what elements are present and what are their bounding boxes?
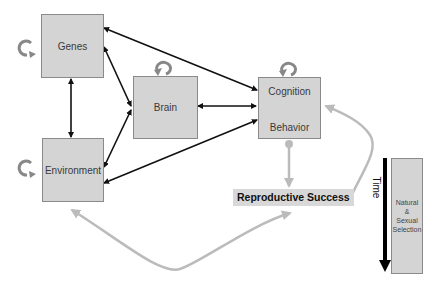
self-loop-brain-icon: [154, 62, 171, 76]
edge-behavior-reproductive-success: [285, 140, 293, 186]
self-loop-cognition-icon: [279, 63, 296, 77]
node-environment-label: Environment: [45, 165, 101, 176]
node-cognition-label: Cognition: [268, 86, 310, 97]
node-genes-label: Genes: [58, 41, 87, 52]
node-brain-label: Brain: [154, 102, 177, 113]
node-genes: Genes: [41, 14, 104, 78]
selection-line-4: Selection: [393, 225, 422, 234]
node-brain: Brain: [133, 76, 198, 139]
node-reproductive-success: Reproductive Success: [233, 189, 354, 206]
selection-line-1: Natural: [396, 198, 419, 207]
edge-genes-brain: [104, 47, 131, 106]
node-environment: Environment: [42, 138, 104, 202]
time-label: Time: [371, 173, 382, 203]
node-natural-sexual-selection: Natural & Sexual Selection: [391, 158, 423, 274]
selection-line-3: Sexual: [396, 216, 417, 225]
edge-environment-reproductive-success: [72, 210, 290, 270]
self-loop-environment-icon: [19, 161, 36, 178]
node-behavior-label: Behavior: [270, 122, 309, 133]
node-cognition-behavior: Cognition Behavior: [258, 77, 321, 139]
selection-line-2: &: [405, 207, 410, 216]
edge-environment-brain: [104, 110, 131, 167]
self-loop-genes-icon: [19, 41, 36, 58]
